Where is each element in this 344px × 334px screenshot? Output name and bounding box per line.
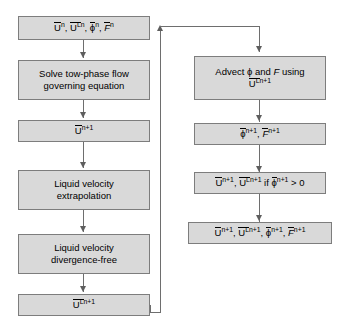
arrow-conditional-to-final [256,215,262,221]
comma: , [257,128,260,139]
sup-n: n [110,21,114,28]
sup-n-plus-1: n+1 [268,127,280,134]
arrow-extrapolation-to-divergence [80,226,86,232]
sup-n-plus-1: n+1 [271,226,283,233]
advect-step-line2: ULn+1 [249,78,271,90]
advected-state-expression: ϕn+1, Fn+1 [240,128,280,140]
sup-L: L [245,226,249,233]
node-liquid-velocity-extrapolation: Liquid velocity extrapolation [18,170,150,210]
term-phi-np1-condition: ϕ [272,177,277,189]
liquid-velocity-state-expression: ULn+1 [73,299,95,311]
solve-step-line2: governing equation [44,80,125,92]
sup-n-plus-1: n+1 [221,226,233,233]
sup-n-plus-1: n+1 [294,226,306,233]
sup-n-plus-1: n+1 [84,298,96,305]
solve-step-line1: Solve tow-phase flow [39,68,129,80]
sup-n-plus-1: n+1 [246,127,258,134]
term-f-n: F [104,22,110,34]
sup-n-plus-1: n+1 [260,77,272,84]
loop-segment-left-vertical [160,28,161,313]
sup-n-plus-1: n+1 [277,176,289,183]
sup-L: L [77,21,81,28]
node-initial-state: Un, ULn, ϕn, Fn [18,16,150,40]
arrow-velocity-to-extrapolation [80,162,86,168]
arrow-initial-to-solve [80,52,86,58]
divergence-step-line1: Liquid velocity [54,242,114,254]
term-f-np1: F [262,128,268,140]
condition-operator: > 0 [291,177,304,188]
term-ul-np1: UL [73,299,84,311]
loop-segment-top-horizontal [160,26,260,27]
term-ul-np1: UL [238,227,249,239]
extrapolation-step-line2: extrapolation [57,190,111,202]
term-phi-np1: ϕ [266,227,271,239]
arrow-divergence-to-liquid-velocity [80,286,86,292]
advect-prefix: Advect [215,66,247,77]
comma: , [65,22,68,33]
node-conditional-state: Un+1, ULn+1 if ϕn+1 > 0 [194,172,326,194]
loop-segment-bottom-stub [150,305,151,313]
term-phi-n: ϕ [90,22,95,34]
sup-L: L [246,176,250,183]
node-final-state: Un+1, ULn+1, ϕn+1, Fn+1 [188,222,332,244]
divergence-step-line2: divergence-free [51,254,117,266]
arrow-advect-to-advected-state [256,115,262,121]
term-u-np1: U [75,125,82,137]
advect-conjunction: and [252,66,273,77]
node-liquid-velocity-state: ULn+1 [18,294,150,316]
sup-n-plus-1: n+1 [250,176,262,183]
term-ul-np1: UL [249,78,260,90]
term-u-np1: U [215,177,222,189]
sup-n-plus-1: n+1 [222,176,234,183]
node-advect-step: Advect ϕ and F using ULn+1 [194,56,326,100]
term-phi-np1: ϕ [240,128,245,140]
term-ul-np1: UL [239,177,250,189]
node-velocity-state: Un+1 [18,120,150,142]
term-u-np1: U [215,227,222,239]
advect-suffix: using [279,66,304,77]
initial-state-expression: Un, ULn, ϕn, Fn [54,22,114,34]
comma: , [261,227,264,238]
node-solve-two-phase-flow: Solve tow-phase flow governing equation [18,60,150,100]
sup-n-plus-1: n+1 [82,124,94,131]
comma: , [99,22,102,33]
arrow-loop-into-advect [256,46,262,52]
conditional-state-expression: Un+1, ULn+1 if ϕn+1 > 0 [215,177,304,189]
comma: , [283,227,286,238]
condition-if-label: if [264,177,269,188]
flowchart-canvas: Un, ULn, ϕn, Fn Solve tow-phase flow gov… [0,0,344,334]
comma: , [85,22,88,33]
term-u-n: U [54,22,61,34]
arrow-solve-to-velocity [80,112,86,118]
extrapolation-step-line1: Liquid velocity [54,178,114,190]
comma: , [233,227,236,238]
node-liquid-velocity-divergence-free: Liquid velocity divergence-free [18,234,150,274]
velocity-state-expression: Un+1 [75,125,93,137]
sup-L: L [80,298,84,305]
final-state-expression: Un+1, ULn+1, ϕn+1, Fn+1 [215,227,306,239]
term-f-np1: F [288,227,294,239]
comma: , [234,177,237,188]
sup-L: L [256,77,260,84]
term-ul-n: UL [70,22,81,34]
node-advected-state: ϕn+1, Fn+1 [194,123,326,145]
sup-n-plus-1: n+1 [249,226,261,233]
